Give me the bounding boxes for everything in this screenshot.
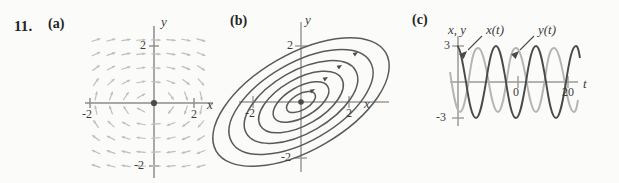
figure-container: 11. (a) bbox=[0, 0, 619, 183]
panel-a-y-axis-label: y bbox=[161, 14, 167, 30]
panel-c-label: (c) bbox=[412, 12, 428, 28]
panel-a-tick-y-2: 2 bbox=[140, 38, 146, 53]
panel-b-y-axis-label: y bbox=[305, 12, 311, 28]
panel-c-tick-3: 3 bbox=[444, 38, 450, 53]
panel-a-tick-x-neg2: -2 bbox=[82, 107, 92, 122]
panel-b-plot bbox=[225, 0, 400, 183]
panel-c-tick-0: 0 bbox=[513, 85, 519, 100]
panel-a-x-axis-label: x bbox=[207, 97, 213, 113]
panel-b-equilibrium-dot bbox=[298, 99, 304, 105]
panel-a-plot bbox=[0, 0, 225, 183]
panel-a-label: (a) bbox=[48, 16, 64, 32]
panel-c: (c) x, y t x( bbox=[400, 0, 619, 183]
panel-b-tick-y-2: 2 bbox=[287, 38, 293, 53]
panel-a-tick-y-neg2: -2 bbox=[134, 158, 144, 173]
panel-a-axes bbox=[85, 26, 213, 178]
panel-b-tick-y-neg2: -2 bbox=[281, 150, 291, 165]
panel-b-tick-x-neg2: -2 bbox=[245, 106, 255, 121]
panel-c-curve-label-x: x(t) bbox=[486, 22, 504, 38]
panel-b-label: (b) bbox=[230, 13, 247, 29]
panel-b-tick-x-2: 2 bbox=[346, 106, 352, 121]
panel-c-vertical-axis-label: x, y bbox=[448, 22, 466, 38]
panel-a: (a) bbox=[0, 0, 225, 183]
panel-c-horizontal-axis-label: t bbox=[583, 76, 587, 92]
panel-b-x-axis-label: x bbox=[364, 96, 370, 112]
panel-c-tick-20: 20 bbox=[562, 85, 574, 100]
panel-c-curve-label-y: y(t) bbox=[538, 22, 556, 38]
panel-c-tick-neg3: -3 bbox=[436, 110, 446, 125]
panel-a-tick-x-2: 2 bbox=[191, 107, 197, 122]
panel-a-equilibrium-dot bbox=[151, 100, 157, 106]
panel-b: (b) bbox=[225, 0, 400, 183]
